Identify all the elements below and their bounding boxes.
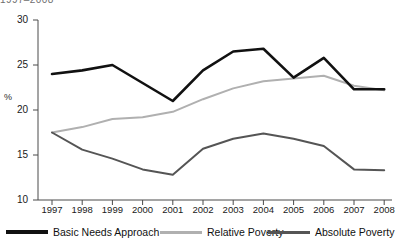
- chart-axes: [38, 20, 392, 200]
- x-tick-label: 1999: [97, 204, 127, 215]
- legend-swatch-icon: [6, 230, 48, 234]
- y-axis-label: %: [4, 92, 12, 102]
- chart-legend: Basic Needs ApproachRelative PovertyAbso…: [0, 224, 399, 240]
- y-tick-label: 15: [6, 149, 28, 160]
- x-tick-label: 2001: [158, 204, 188, 215]
- legend-swatch-icon: [160, 231, 202, 234]
- x-tick-label: 2006: [309, 204, 339, 215]
- x-tick-label: 2003: [218, 204, 248, 215]
- y-tick-label: 10: [6, 194, 28, 205]
- x-tick-label: 1997: [37, 204, 67, 215]
- x-tick-label: 1998: [67, 204, 97, 215]
- y-tick-label: 30: [6, 14, 28, 25]
- series-line: [52, 76, 384, 133]
- y-tick-label: 20: [6, 104, 28, 115]
- legend-item: Basic Needs Approach: [6, 224, 159, 240]
- legend-item: Relative Poverty: [160, 224, 283, 240]
- legend-item: Absolute Poverty: [268, 224, 394, 240]
- x-tick-label: 2004: [248, 204, 278, 215]
- x-tick-label: 2008: [369, 204, 399, 215]
- y-tick-label: 25: [6, 59, 28, 70]
- legend-label: Basic Needs Approach: [53, 226, 159, 238]
- x-tick-label: 2000: [128, 204, 158, 215]
- series-line: [52, 133, 384, 175]
- legend-label: Absolute Poverty: [315, 226, 394, 238]
- x-tick-label: 2007: [339, 204, 369, 215]
- y-axis-ticks: [33, 20, 38, 200]
- x-tick-label: 2002: [188, 204, 218, 215]
- legend-swatch-icon: [268, 231, 310, 234]
- x-tick-label: 2005: [279, 204, 309, 215]
- chart-series-lines: [52, 49, 384, 175]
- poverty-trend-chart: 1997–2008 % 1015202530 19971998199920002…: [0, 0, 399, 240]
